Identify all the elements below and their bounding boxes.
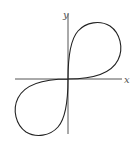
figure-eight-diagram: x y <box>0 0 138 153</box>
x-axis-label: x <box>124 74 130 85</box>
y-axis-label: y <box>62 9 69 20</box>
